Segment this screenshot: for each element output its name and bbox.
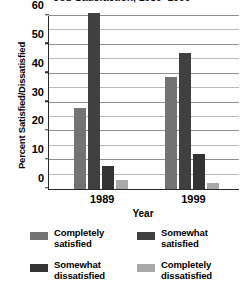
legend-item: Somewhat satisfied (137, 228, 238, 250)
chart-legend: Completely satisfiedSomewhat satisfiedSo… (30, 228, 238, 282)
y-tick-label: 0 (38, 173, 44, 184)
legend-swatch (30, 264, 48, 272)
legend-swatch (137, 232, 155, 240)
bar (193, 154, 205, 189)
bar-group (74, 16, 130, 189)
y-tick-mark (45, 14, 49, 16)
y-tick-label: 50 (32, 28, 44, 39)
legend-label: Somewhat satisfied (161, 228, 208, 250)
legend-label: Completely satisfied (54, 228, 104, 250)
x-tick-label: 1989 (90, 193, 114, 205)
bar (116, 180, 128, 189)
x-tick-label: 1999 (181, 193, 205, 205)
legend-label: Somewhat dissatisfied (54, 260, 105, 282)
bar (165, 77, 177, 189)
plot-area: 0102030405060 19891999 (48, 16, 239, 190)
y-tick-label: 20 (32, 115, 44, 126)
y-tick-mark (45, 100, 49, 102)
y-tick-mark (45, 158, 49, 160)
bar (88, 13, 100, 189)
y-tick-mark (45, 129, 49, 131)
bar-group (165, 16, 221, 189)
legend-item: Completely dissatisfied (137, 260, 238, 282)
y-tick-label: 10 (32, 144, 44, 155)
legend-label: Completely dissatisfied (161, 260, 212, 282)
bar (102, 166, 114, 189)
y-tick-mark (45, 187, 49, 189)
y-tick-label: 30 (32, 86, 44, 97)
legend-swatch (137, 264, 155, 272)
bar-chart-figure: Job Satisfaction, 1989–1999 Percent Sati… (0, 0, 244, 295)
x-axis-title: Year (48, 208, 238, 219)
legend-swatch (30, 232, 48, 240)
y-tick-mark (45, 71, 49, 73)
bar (74, 108, 86, 189)
y-tick-label: 40 (32, 57, 44, 68)
legend-item: Completely satisfied (30, 228, 131, 250)
y-axis-title: Percent Satisfied/Dissatisfied (16, 21, 27, 191)
bar (207, 183, 219, 189)
y-tick-mark (45, 43, 49, 45)
legend-item: Somewhat dissatisfied (30, 260, 131, 282)
y-tick-label: 60 (32, 0, 44, 11)
bar (179, 53, 191, 189)
